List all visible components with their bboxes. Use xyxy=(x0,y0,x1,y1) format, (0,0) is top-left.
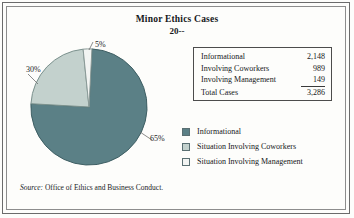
chart-title: Minor Ethics Cases xyxy=(0,14,354,25)
table-cell-label: Involving Coworkers xyxy=(201,63,301,75)
data-table: Informational 2,148 Involving Coworkers … xyxy=(201,51,325,98)
title-block: Minor Ethics Cases 20-- xyxy=(0,14,354,37)
source-text: Office of Ethics and Business Conduct. xyxy=(45,183,163,192)
table-total-row: Total Cases 3,286 xyxy=(201,86,325,98)
pie-svg xyxy=(30,48,148,166)
legend-swatch-icon xyxy=(182,143,190,151)
table-cell-label: Informational xyxy=(201,51,301,63)
legend-swatch-icon xyxy=(182,158,190,166)
legend-item-informational: Informational xyxy=(182,124,350,139)
pie-slice-coworkers xyxy=(31,49,89,107)
pie-label-coworkers: 30% xyxy=(26,65,41,74)
legend-swatch-icon xyxy=(182,128,190,136)
table-total-value: 3,286 xyxy=(301,86,325,98)
table-row: Informational 2,148 xyxy=(201,51,325,63)
legend: Informational Situation Involving Cowork… xyxy=(182,124,350,169)
legend-item-management: Situation Involving Management xyxy=(182,154,350,169)
table-row: Involving Coworkers 989 xyxy=(201,63,325,75)
legend-item-label: Informational xyxy=(197,127,241,136)
legend-item-coworkers: Situation Involving Coworkers xyxy=(182,139,350,154)
pie-label-informational: 65% xyxy=(150,134,165,143)
pie-label-management: 5% xyxy=(95,40,106,49)
table-row: Involving Management 149 xyxy=(201,74,325,86)
data-table-box: Informational 2,148 Involving Coworkers … xyxy=(193,47,332,101)
chart-subtitle: 20-- xyxy=(0,26,354,37)
legend-item-label: Situation Involving Management xyxy=(197,157,303,166)
pie-chart xyxy=(30,48,148,166)
table-cell-value: 149 xyxy=(301,74,325,86)
source-label: Source: xyxy=(20,183,43,192)
table-cell-value: 989 xyxy=(301,63,325,75)
table-total-label: Total Cases xyxy=(201,86,301,98)
table-cell-value: 2,148 xyxy=(301,51,325,63)
legend-item-label: Situation Involving Coworkers xyxy=(197,142,296,151)
figure-container: Minor Ethics Cases 20-- 5% 30% 65% Infor… xyxy=(0,0,354,218)
source-note: Source: Office of Ethics and Business Co… xyxy=(20,183,163,192)
table-cell-label: Involving Management xyxy=(201,74,301,86)
